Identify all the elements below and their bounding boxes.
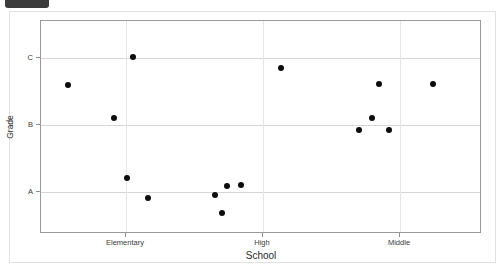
data-point — [219, 210, 225, 216]
data-point — [278, 65, 284, 71]
data-point — [430, 81, 436, 87]
data-point — [124, 175, 130, 181]
data-point — [386, 127, 392, 133]
x-tick-mark — [399, 233, 400, 237]
y-tick-label: C — [28, 53, 33, 62]
data-point — [130, 54, 136, 60]
data-point — [356, 127, 362, 133]
y-tick-label: A — [28, 187, 33, 196]
data-point — [224, 183, 230, 189]
gridline — [41, 125, 480, 126]
y-axis-title: Grade — [5, 115, 15, 139]
data-point — [369, 115, 375, 121]
data-point — [111, 115, 117, 121]
x-tick-mark — [125, 233, 126, 237]
x-tick-label: Middle — [388, 238, 410, 247]
data-point — [376, 81, 382, 87]
data-point — [65, 82, 71, 88]
vertical-gridline — [126, 21, 127, 232]
gridline — [41, 192, 480, 193]
vertical-gridline — [263, 21, 264, 232]
x-tick-mark — [262, 233, 263, 237]
vertical-gridline — [400, 21, 401, 232]
y-tick-label: B — [28, 120, 33, 129]
data-point — [238, 182, 244, 188]
data-point — [145, 195, 151, 201]
x-tick-label: Elementary — [106, 238, 144, 247]
x-tick-label: High — [254, 238, 269, 247]
x-axis-title: School — [246, 250, 277, 261]
plot-area — [40, 20, 481, 233]
gridline — [41, 58, 480, 59]
scatter-chart-figure: Grade School CBA ElementaryHighMiddle — [0, 0, 503, 279]
data-point — [212, 192, 218, 198]
